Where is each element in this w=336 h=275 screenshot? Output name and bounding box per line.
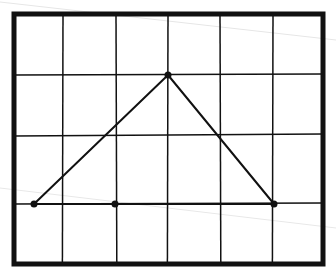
vertex-point-A	[31, 201, 38, 208]
triangle-edge-AC	[34, 75, 168, 204]
vertex-point-C	[165, 72, 172, 79]
grid-line-vertical	[62, 14, 63, 264]
diagram-canvas: Hand-drawn triangle on grid	[0, 0, 336, 275]
grid-triangle-diagram	[0, 0, 336, 275]
grid-line-horizontal	[14, 134, 323, 136]
vertex-point-B	[112, 201, 119, 208]
vertex-point-D	[271, 201, 278, 208]
triangle-vertices	[31, 72, 278, 208]
grid-line-vertical	[116, 14, 117, 264]
triangle-edges	[34, 75, 274, 204]
grid-lines	[14, 14, 323, 264]
grid-line-vertical	[167, 14, 168, 264]
grid-line-vertical	[272, 14, 273, 264]
